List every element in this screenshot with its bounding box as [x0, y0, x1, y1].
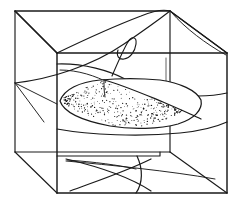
stipple-dot [112, 122, 113, 123]
stipple-dot [87, 87, 88, 88]
stipple-dot [125, 122, 126, 123]
stipple-dot [151, 105, 152, 106]
stipple-dot [94, 107, 95, 108]
stipple-dot [86, 92, 87, 93]
stipple-dot [141, 123, 142, 124]
box-left-face-lines [15, 11, 57, 122]
stipple-dot [77, 95, 78, 96]
stipple-dot [87, 97, 88, 98]
stipple-dot [176, 112, 177, 113]
stipple-dot [96, 93, 97, 94]
stipple-dot [157, 104, 158, 105]
stipple-dot [129, 92, 130, 93]
stipple-dot [76, 104, 77, 105]
stipple-dot [94, 98, 95, 99]
stipple-dot [166, 105, 167, 106]
stipple-dot [74, 109, 75, 110]
stipple-dot [120, 113, 121, 114]
stipple-dot [66, 104, 67, 105]
stipple-dot [139, 104, 140, 105]
stipple-dot [133, 109, 134, 110]
stipple-dot [71, 98, 72, 99]
stipple-dot [161, 119, 162, 120]
stipple-dot [119, 124, 120, 125]
stipple-dot [87, 106, 88, 107]
stipple-dot [73, 104, 74, 105]
stipple-dot [164, 116, 165, 117]
stipple-dot [104, 113, 105, 114]
stipple-dot [161, 106, 162, 107]
stipple-dot [101, 81, 102, 82]
stipple-dot [144, 104, 145, 105]
stipple-dot [142, 111, 143, 112]
stipple-dot [64, 103, 65, 104]
stipple-dot [153, 122, 154, 123]
vortex-curve-upper-sweep [15, 11, 170, 83]
stipple-dot [95, 113, 96, 114]
stipple-dot [159, 121, 160, 122]
stipple-dot [114, 125, 115, 126]
stipple-dot [138, 106, 139, 107]
stipple-dot [137, 107, 138, 108]
stipple-dot [87, 88, 88, 89]
stipple-dot [102, 93, 103, 94]
stipple-dot [108, 87, 109, 88]
stipple-dot [75, 98, 76, 99]
box-edge-bottom-right-depth [170, 152, 227, 193]
stipple-dot [91, 87, 92, 88]
stipple-dot [88, 93, 89, 94]
stipple-dot [152, 123, 153, 124]
stipple-dot [78, 93, 79, 94]
stipple-dot [148, 103, 149, 104]
stipple-dot [67, 98, 68, 99]
stipple-dot [108, 119, 109, 120]
stipple-dot [102, 110, 103, 111]
stipple-dot [121, 115, 122, 116]
box-top-face-diagonals [15, 11, 227, 55]
stipple-dot [163, 119, 164, 120]
stipple-dot [137, 115, 138, 116]
wing-outline-path [60, 79, 201, 129]
stipple-dot [166, 117, 167, 118]
stipple-dot [137, 102, 138, 103]
stipple-dot [153, 114, 154, 115]
stipple-dot [154, 112, 155, 113]
stipple-dot [156, 107, 157, 108]
stipple-dot [117, 116, 118, 117]
stipple-dot [105, 120, 106, 121]
stipple-dot [66, 96, 67, 97]
stipple-dot [163, 104, 164, 105]
stipple-dot [112, 124, 113, 125]
stipple-dot [95, 91, 96, 92]
stipple-dot [171, 109, 172, 110]
stipple-dot [122, 120, 123, 121]
stipple-dot [92, 97, 93, 98]
stipple-dot [102, 108, 103, 109]
stipple-dot [108, 112, 109, 113]
stipple-dot [153, 120, 154, 121]
stipple-dot [126, 114, 127, 115]
stipple-dot [100, 82, 101, 83]
stipple-dot [150, 105, 151, 106]
stipple-dot [124, 106, 125, 107]
stipple-dot [129, 98, 130, 99]
stipple-dot [160, 103, 161, 104]
stipple-dot [155, 118, 156, 119]
stipple-dot [120, 107, 121, 108]
stipple-dot [141, 107, 142, 108]
stipple-dot [85, 105, 86, 106]
stipple-dot [141, 115, 142, 116]
stipple-dot [131, 116, 132, 117]
stipple-dot [100, 112, 101, 113]
stipple-dot [73, 95, 74, 96]
stipple-dot [130, 115, 131, 116]
stipple-dot [148, 102, 149, 103]
stipple-dot [87, 113, 88, 114]
stipple-dot [64, 99, 65, 100]
stipple-dot [120, 121, 121, 122]
stipple-dot [155, 110, 156, 111]
stipple-dot [115, 108, 116, 109]
stipple-dot [147, 105, 148, 106]
stipple-dot [124, 125, 125, 126]
stipple-dot [153, 119, 154, 120]
